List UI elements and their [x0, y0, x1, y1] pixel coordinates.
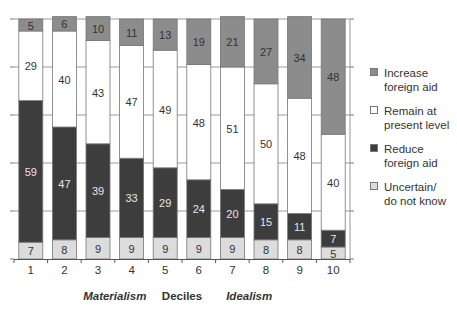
bar-group-2: 847406 — [52, 17, 76, 259]
bar-group-10: 574048 — [321, 19, 345, 260]
legend-item-remain: Remain at present level — [370, 104, 457, 132]
data-label: 9 — [229, 243, 235, 255]
data-label: 11 — [126, 27, 137, 39]
legend-label: do not know — [384, 194, 457, 208]
data-label: 9 — [162, 243, 168, 255]
data-label: 7 — [28, 245, 34, 257]
x-tick-label: 8 — [263, 264, 269, 276]
bar-group-4: 9334711 — [120, 19, 144, 259]
data-label: 24 — [193, 203, 205, 215]
data-label: 13 — [159, 29, 171, 41]
x-tick-label: 9 — [296, 264, 302, 276]
legend-item-uncertain: Uncertain/ do not know — [370, 180, 457, 208]
x-tick-label: 4 — [128, 264, 135, 276]
data-label: 10 — [92, 23, 104, 35]
data-label: 50 — [260, 138, 272, 150]
data-label: 40 — [58, 74, 70, 86]
data-label: 8 — [263, 244, 269, 256]
x-tick-label: 7 — [229, 264, 235, 276]
data-label: 20 — [226, 208, 238, 220]
bar-group-1: 759295 — [19, 19, 43, 259]
data-label: 48 — [193, 117, 205, 129]
x-annotation-materialism: Materialism — [83, 290, 146, 302]
x-annotations: MaterialismDecilesIdealism — [83, 290, 272, 302]
x-tick-label: 1 — [28, 264, 34, 276]
data-label: 5 — [330, 248, 336, 260]
legend-swatch-reduce — [370, 144, 378, 152]
legend-item-increase: Increase foreign aid — [370, 66, 457, 94]
legend-swatch-remain — [370, 106, 378, 114]
data-label: 51 — [226, 123, 238, 135]
data-label: 21 — [226, 36, 238, 48]
data-label: 5 — [28, 20, 34, 32]
x-tick-label: 6 — [196, 264, 202, 276]
bar-group-6: 9244819 — [187, 19, 211, 259]
data-label: 48 — [293, 150, 305, 162]
legend-label: Reduce — [384, 142, 457, 156]
data-label: 39 — [92, 185, 104, 197]
x-annotation-idealism: Idealism — [226, 290, 272, 302]
legend-label: Uncertain/ — [384, 180, 457, 194]
bar-group-3: 9394310 — [86, 17, 110, 259]
x-annotation-deciles: Deciles — [162, 290, 202, 302]
data-label: 15 — [260, 216, 272, 228]
bar-group-5: 9294913 — [153, 19, 177, 259]
legend-swatch-uncertain — [370, 182, 378, 190]
legend-item-reduce: Reduce foreign aid — [370, 142, 457, 170]
data-label: 9 — [196, 243, 202, 255]
legend: Increase foreign aid Remain at present l… — [370, 66, 457, 218]
data-label: 49 — [159, 104, 171, 116]
data-label: 8 — [297, 244, 303, 256]
data-label: 11 — [294, 221, 305, 233]
x-tick-labels: 12345678910 — [28, 264, 340, 276]
data-label: 40 — [327, 177, 339, 189]
data-label: 47 — [58, 178, 70, 190]
x-tick-label: 2 — [61, 264, 67, 276]
legend-label: present level — [384, 118, 457, 132]
data-label: 59 — [25, 166, 37, 178]
data-label: 9 — [129, 243, 135, 255]
data-label: 43 — [92, 87, 104, 99]
bars: 7592958474069394310933471192949139244819… — [19, 17, 345, 260]
data-label: 48 — [327, 71, 339, 83]
data-label: 29 — [159, 197, 171, 209]
data-label: 33 — [125, 192, 137, 204]
data-label: 34 — [293, 52, 305, 64]
x-tick-label: 3 — [95, 264, 101, 276]
legend-swatch-increase — [370, 68, 378, 76]
bar-group-8: 8155027 — [254, 19, 278, 259]
bar-group-9: 8114834 — [288, 17, 312, 259]
data-label: 6 — [61, 18, 67, 30]
legend-label: foreign aid — [384, 80, 457, 94]
data-label: 27 — [260, 46, 272, 58]
x-tick-label: 10 — [327, 264, 340, 276]
data-label: 19 — [193, 36, 205, 48]
data-label: 47 — [125, 96, 137, 108]
legend-label: Increase — [384, 66, 457, 80]
bar-group-7: 9205121 — [220, 17, 244, 259]
data-label: 8 — [61, 244, 67, 256]
data-label: 29 — [25, 60, 37, 72]
legend-label: foreign aid — [384, 156, 457, 170]
x-tick-label: 5 — [162, 264, 168, 276]
data-label: 9 — [95, 243, 101, 255]
legend-label: Remain at — [384, 104, 457, 118]
data-label: 7 — [330, 233, 336, 245]
